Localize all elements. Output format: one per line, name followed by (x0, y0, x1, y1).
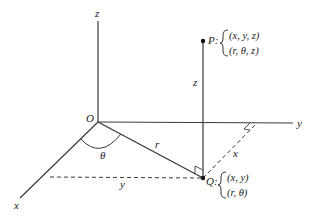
right-angle-mark-q (195, 166, 203, 174)
point-q-label: Q: (x, y) (r, θ) (206, 172, 249, 199)
theta-label: θ (100, 149, 106, 161)
point-q-dot (201, 176, 205, 180)
x-distance-label: x (232, 147, 238, 159)
point-p-name: P: (207, 34, 218, 46)
r-segment (98, 122, 203, 178)
y-axis-label: y (296, 117, 302, 129)
z-height-label: z (192, 76, 198, 88)
dashed-x-distance (203, 124, 256, 178)
theta-arc (81, 134, 121, 148)
point-q-cartesian: (x, y) (227, 172, 249, 184)
point-q-cylindrical: (r, θ) (227, 187, 248, 199)
r-label: r (155, 138, 160, 150)
dashed-y-distance (50, 177, 203, 178)
x-axis (20, 122, 98, 198)
point-q-name: Q: (206, 175, 218, 187)
point-q-brace (218, 172, 226, 198)
y-axis (98, 122, 293, 123)
z-axis-label: z (94, 7, 100, 19)
point-p-cartesian: (x, y, z) (229, 30, 260, 42)
cylindrical-coordinates-diagram: z y x O r θ z x y P: (x, y, z) (r, θ, z)… (0, 0, 317, 217)
point-p-brace (220, 30, 228, 56)
right-angle-mark-y-axis (244, 123, 250, 130)
y-distance-label: y (119, 178, 125, 190)
point-p-cylindrical: (r, θ, z) (229, 45, 259, 57)
point-p-dot (201, 39, 205, 43)
point-p-label: P: (x, y, z) (r, θ, z) (207, 30, 260, 57)
x-axis-label: x (13, 199, 19, 211)
origin-label: O (86, 112, 94, 124)
